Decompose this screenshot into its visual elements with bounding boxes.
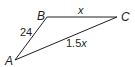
- side-label-ac-var: x: [81, 37, 87, 49]
- side-label-bc: x: [78, 5, 84, 16]
- side-label-ac-coef: 1.5: [66, 37, 81, 49]
- side-label-ab: 24: [20, 27, 32, 38]
- vertex-label-c: C: [121, 11, 130, 23]
- vertex-label-a: A: [5, 55, 13, 67]
- triangle-diagram: B C A 24 x 1.5x: [0, 0, 135, 67]
- vertex-label-b: B: [37, 10, 45, 22]
- side-label-ac: 1.5x: [66, 38, 87, 49]
